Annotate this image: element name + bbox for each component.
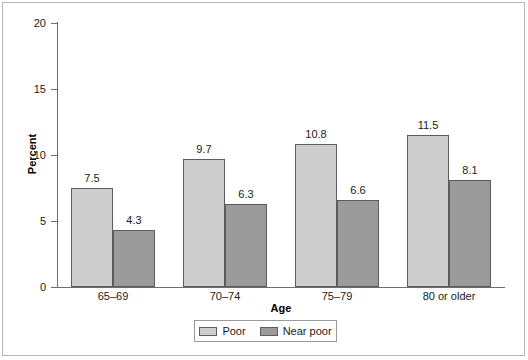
bar-value-label: 9.7 xyxy=(169,144,239,155)
bar xyxy=(449,180,491,287)
bar-value-label: 6.6 xyxy=(323,185,393,196)
bar xyxy=(337,200,379,287)
bar xyxy=(113,230,155,287)
bar xyxy=(407,135,449,287)
y-tick-label: 0 xyxy=(12,282,46,293)
bar xyxy=(225,204,267,287)
bar xyxy=(295,144,337,287)
y-tick-15 xyxy=(51,89,57,90)
bar-value-label: 10.8 xyxy=(281,129,351,140)
bar-value-label: 6.3 xyxy=(211,189,281,200)
bar xyxy=(71,188,113,287)
bar-value-label: 7.5 xyxy=(57,173,127,184)
legend-swatch-near-poor xyxy=(260,327,278,336)
bar xyxy=(183,159,225,287)
legend-label-poor: Poor xyxy=(222,326,245,337)
y-tick-10 xyxy=(51,155,57,156)
y-tick-5 xyxy=(51,221,57,222)
legend-label-near-poor: Near poor xyxy=(283,326,332,337)
y-tick-label: 5 xyxy=(12,216,46,227)
y-tick-label: 20 xyxy=(12,18,46,29)
x-axis-label: 65–69 xyxy=(63,290,163,302)
legend-swatch-poor xyxy=(199,327,217,336)
bar-value-label: 11.5 xyxy=(393,120,463,131)
chart-legend: Poor Near poor xyxy=(194,320,337,342)
x-axis-label: 80 or older xyxy=(399,290,499,302)
y-tick-20 xyxy=(51,23,57,24)
legend-entry-near-poor: Near poor xyxy=(260,326,332,337)
y-tick-0 xyxy=(51,287,57,288)
legend-entry-poor: Poor xyxy=(199,326,245,337)
y-tick-label: 10 xyxy=(12,150,46,161)
bar-value-label: 4.3 xyxy=(99,215,169,226)
x-axis-line xyxy=(57,287,505,288)
x-axis-label: 75–79 xyxy=(287,290,387,302)
x-axis-title: Age xyxy=(57,302,505,314)
bar-value-label: 8.1 xyxy=(435,165,505,176)
y-tick-label: 15 xyxy=(12,84,46,95)
y-axis-line xyxy=(57,22,58,288)
x-axis-label: 70–74 xyxy=(175,290,275,302)
bar-chart: Percent Age 05101520 7.54.39.76.310.86.6… xyxy=(0,0,528,360)
